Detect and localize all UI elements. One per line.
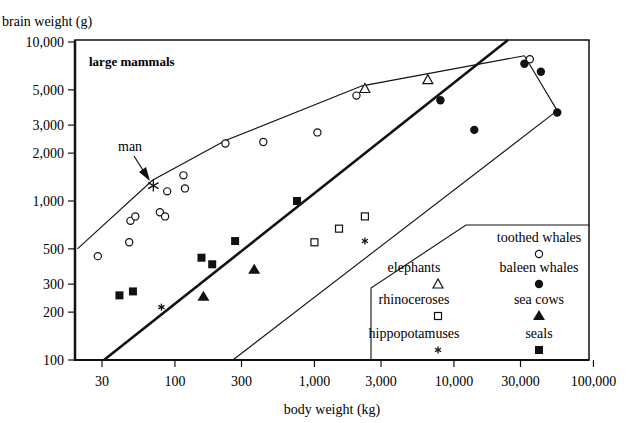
legend-label: rhinoceroses [379, 292, 450, 307]
x-tick-label: 1,000 [299, 374, 331, 389]
open-circle-marker-icon [164, 188, 171, 195]
open-circle-marker-icon [353, 92, 360, 99]
legend-item: hippopotamuses [369, 326, 460, 354]
filled-circle-marker-icon [520, 60, 528, 68]
legend-label: toothed whales [497, 230, 581, 245]
filled-square-marker-icon [115, 291, 123, 299]
filled-circle-marker-icon [470, 126, 478, 134]
legend-label: baleen whales [500, 260, 579, 275]
man-label: man [118, 139, 142, 154]
envelope-polygon [77, 56, 557, 360]
y-tick-label: 100 [43, 353, 64, 368]
open-square-marker-icon [311, 239, 318, 246]
open-circle-marker-icon [314, 129, 321, 136]
asterisk-marker-icon [158, 304, 164, 311]
legend-item: sea cows [514, 292, 564, 320]
legend-label: sea cows [514, 292, 564, 307]
x-tick-label: 3,000 [365, 374, 397, 389]
y-tick-label: 5,000 [33, 83, 65, 98]
filled-square-marker-icon [535, 346, 543, 354]
open-circle-marker-icon [126, 239, 133, 246]
filled-triangle-marker-icon [533, 310, 545, 320]
y-tick-label: 200 [43, 305, 64, 320]
open-circle-marker-icon [535, 250, 542, 257]
y-tick-label: 300 [43, 277, 64, 292]
plot-title: large mammals [89, 54, 175, 69]
open-circle-marker-icon [181, 185, 188, 192]
legend-item: elephants [388, 260, 443, 288]
y-axis-label: brain weight (g) [2, 14, 93, 30]
asterisk-marker-icon [435, 347, 441, 354]
open-square-marker-icon [361, 213, 368, 220]
legend-item: seals [525, 326, 552, 354]
open-circle-marker-icon [180, 172, 187, 179]
x-tick-label: 30 [95, 374, 109, 389]
filled-circle-marker-icon [535, 280, 543, 288]
filled-triangle-marker-icon [248, 264, 260, 274]
open-triangle-marker-icon [423, 75, 433, 84]
open-circle-marker-icon [222, 140, 229, 147]
filled-square-marker-icon [208, 260, 216, 268]
filled-circle-marker-icon [537, 68, 545, 76]
x-tick-label: 100 [164, 374, 185, 389]
plot-frame [75, 40, 589, 360]
man-annotation: man [118, 139, 150, 181]
filled-square-marker-icon [293, 197, 301, 205]
brain-body-chart: brain weight (g) body weight (kg) large … [0, 0, 628, 423]
regression-line [104, 40, 508, 360]
y-tick-label: 3,000 [33, 118, 65, 133]
legend-label: elephants [388, 260, 441, 275]
y-tick-label: 1,000 [33, 194, 65, 209]
arrow-head-icon [139, 167, 150, 181]
legend-label: seals [525, 326, 552, 341]
open-circle-marker-icon [132, 213, 139, 220]
filled-triangle-marker-icon [197, 291, 209, 301]
x-tick-label: 100,000 [571, 374, 617, 389]
x-tick-label: 30,000 [501, 374, 540, 389]
legend-item: toothed whales [497, 230, 581, 258]
filled-circle-marker-icon [436, 96, 444, 104]
x-tick-label: 300 [231, 374, 252, 389]
filled-circle-marker-icon [553, 108, 561, 116]
open-square-marker-icon [435, 313, 442, 320]
y-tick-label: 2,000 [33, 146, 65, 161]
y-tick-label: 10,000 [26, 35, 65, 50]
y-tick-label: 500 [43, 242, 64, 257]
open-circle-marker-icon [260, 138, 267, 145]
legend-item: rhinoceroses [379, 292, 450, 320]
legend-item: baleen whales [500, 260, 579, 288]
x-tick-label: 10,000 [435, 374, 474, 389]
asterisk-large-marker-icon [148, 180, 158, 192]
open-circle-marker-icon [161, 213, 168, 220]
filled-square-marker-icon [231, 237, 239, 245]
legend-label: hippopotamuses [369, 326, 460, 341]
x-axis-label: body weight (kg) [284, 402, 381, 418]
asterisk-marker-icon [362, 238, 368, 245]
open-square-marker-icon [336, 225, 343, 232]
open-triangle-marker-icon [433, 279, 443, 288]
filled-square-marker-icon [197, 254, 205, 262]
open-circle-marker-icon [94, 253, 101, 260]
filled-square-marker-icon [129, 287, 137, 295]
legend: toothed whaleselephantsbaleen whalesrhin… [369, 230, 582, 354]
